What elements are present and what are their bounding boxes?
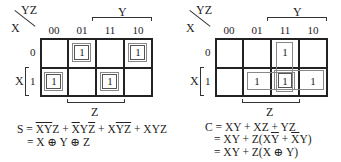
cell-0-10: 1 [124, 46, 152, 58]
col-label-00: 00 [215, 24, 243, 36]
term-2: XYZ [72, 123, 96, 135]
z-label: Z [266, 105, 273, 120]
x-bracket [200, 67, 204, 96]
cell-1-11: 1 [96, 75, 124, 87]
sum-equation-line1: S = XYZ + XYZ + XYZ + XYZ [17, 123, 167, 135]
corner-label-x: X [11, 21, 20, 36]
grid-divider [215, 67, 328, 69]
col-label-01: 01 [243, 24, 271, 36]
z-bracket [67, 99, 125, 103]
col-label-10: 10 [299, 24, 327, 36]
y-label: Y [118, 5, 127, 20]
cell-1-10: 1 [299, 75, 327, 87]
y-label: Y [293, 5, 302, 20]
term-1: XYZ [36, 123, 60, 135]
row-label-1: 1 [30, 75, 36, 87]
cell-1-00: 1 [40, 75, 68, 87]
x-bracket [25, 67, 29, 96]
sum-equation-line2: = X ⊕ Y ⊕ Z [27, 135, 90, 149]
carry-equation-line1: C = XY + XZ + YZ [205, 121, 296, 133]
col-label-10: 10 [124, 24, 152, 36]
cell-0-11: 1 [271, 46, 299, 58]
col-label-01: 01 [68, 24, 96, 36]
cell-1-01: 1 [243, 75, 271, 87]
corner-label-x: X [186, 21, 195, 36]
col-label-11: 11 [96, 24, 124, 36]
term-4: XYZ [143, 123, 167, 135]
row-label-0: 0 [30, 46, 36, 58]
carry-equation-line3: = XY + Z(X ⊕ Y) [214, 145, 298, 159]
grid-divider [40, 67, 153, 69]
row-label-1: 1 [205, 75, 211, 87]
cell-1-11: 1 [271, 75, 299, 87]
col-label-00: 00 [40, 24, 68, 36]
cell-0-01: 1 [68, 46, 96, 58]
term-3: XYZ [107, 123, 131, 135]
z-bracket [242, 99, 300, 103]
x-label: X [190, 74, 199, 89]
carry-equation-line2: = XY + Z(XY + XY) [214, 133, 312, 145]
z-label: Z [91, 105, 98, 120]
col-label-11: 11 [271, 24, 299, 36]
x-label: X [15, 74, 24, 89]
row-label-0: 0 [205, 46, 211, 58]
